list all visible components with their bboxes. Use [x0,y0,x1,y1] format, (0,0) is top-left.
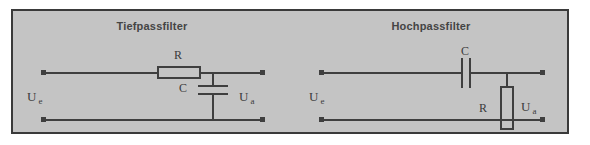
highpass-bottom-wire [321,119,543,121]
highpass-output-terminal-bottom [540,117,545,122]
lowpass-cap-bottom-lead [212,95,214,121]
lowpass-input-voltage-subscript: e [38,96,42,106]
highpass-resistor-symbol [500,86,514,130]
highpass-top-wire-left [321,72,461,74]
lowpass-output-voltage-label: Ua [239,89,252,105]
highpass-output-terminal-top [540,70,545,75]
lowpass-input-terminal-bottom [41,117,46,122]
lowpass-input-voltage-symbol: U [27,89,36,104]
highpass-resistor-top-lead [506,72,508,86]
lowpass-output-terminal-bottom [260,117,265,122]
lowpass-capacitor-plate-top [198,85,228,87]
highpass-input-terminal-bottom [319,117,324,122]
highpass-title: Hochpassfilter [291,20,571,32]
lowpass-resistor-symbol [157,66,201,79]
highpass-input-voltage-label: Ue [309,89,322,105]
highpass-output-voltage-label: Ua [521,99,534,115]
diagram-panel: Tiefpassfilter R C Ue Ua [11,9,569,134]
highpass-output-voltage-subscript: a [532,106,536,116]
lowpass-resistor-label: R [174,48,182,63]
lowpass-title: Tiefpassfilter [13,20,291,32]
highpass-capacitor-plate-left [461,58,463,88]
circuit-figure: Tiefpassfilter R C Ue Ua [0,0,590,145]
lowpass-bottom-wire [43,119,263,121]
lowpass-input-voltage-label: Ue [27,89,40,105]
highpass-filter-circuit: Hochpassfilter C R Ue U [291,11,571,136]
highpass-capacitor-label: C [461,44,469,59]
lowpass-top-wire-left [43,72,157,74]
lowpass-capacitor-label: C [179,81,187,96]
lowpass-output-terminal-top [260,70,265,75]
lowpass-filter-circuit: Tiefpassfilter R C Ue Ua [13,11,291,136]
highpass-output-voltage-symbol: U [521,99,530,114]
highpass-input-terminal-top [319,70,324,75]
highpass-resistor-label: R [479,101,487,116]
lowpass-top-wire-right [201,72,263,74]
highpass-input-voltage-symbol: U [309,89,318,104]
lowpass-output-voltage-subscript: a [250,96,254,106]
lowpass-output-voltage-symbol: U [239,89,248,104]
highpass-input-voltage-subscript: e [320,96,324,106]
lowpass-input-terminal-top [41,70,46,75]
lowpass-cap-top-lead [212,72,214,85]
